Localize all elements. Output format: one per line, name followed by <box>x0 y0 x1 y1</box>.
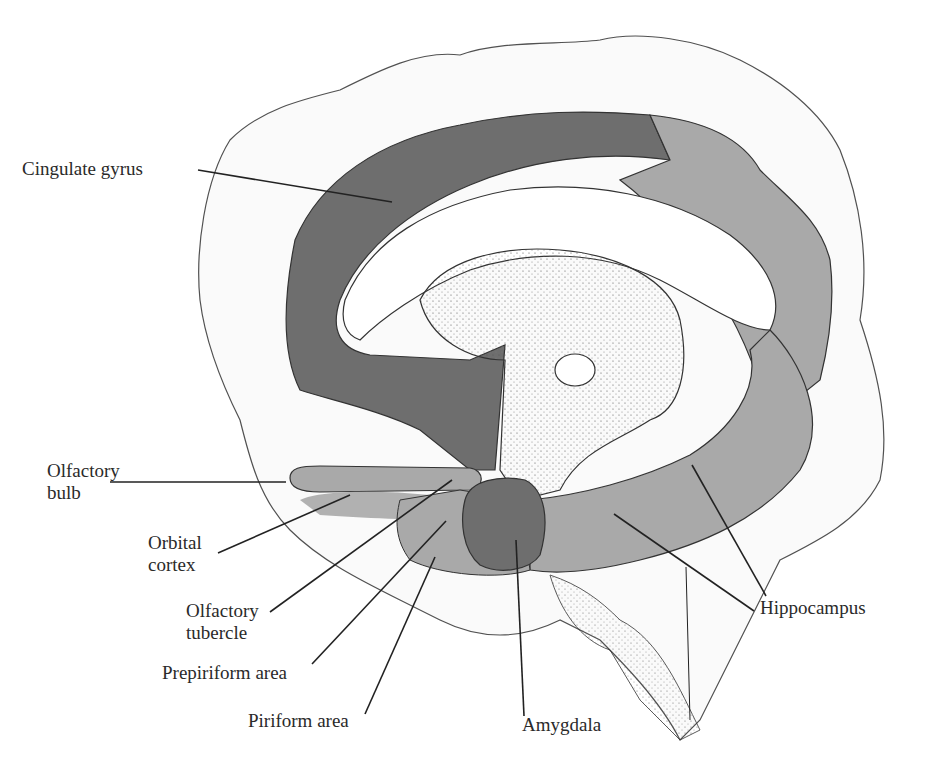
interthalamic-adhesion <box>555 354 595 386</box>
limbic-system-diagram: Cingulate gyrus Olfactorybulb Orbitalcor… <box>0 0 930 776</box>
label-cingulate-gyrus: Cingulate gyrus <box>22 158 143 180</box>
label-orbital-cortex: Orbitalcortex <box>148 532 202 576</box>
brain-illustration <box>0 0 930 776</box>
label-piriform-area: Piriform area <box>248 710 349 732</box>
olfactory-bulb-region <box>290 466 481 492</box>
label-olfactory-tubercle: Olfactorytubercle <box>186 600 259 644</box>
label-olfactory-bulb: Olfactorybulb <box>47 460 120 504</box>
amygdala-region <box>463 478 545 570</box>
label-hippocampus: Hippocampus <box>760 597 866 619</box>
label-prepiriform-area: Prepiriform area <box>162 662 287 684</box>
label-amygdala: Amygdala <box>522 714 601 736</box>
